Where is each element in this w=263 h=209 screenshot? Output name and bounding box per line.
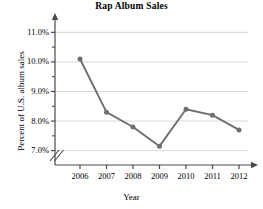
data-point <box>157 144 162 149</box>
data-line <box>80 59 239 146</box>
y-axis-arrow <box>52 13 58 20</box>
rap-album-sales-chart: Rap Album Sales Percent of U.S. album sa… <box>0 0 263 209</box>
data-point <box>131 124 136 129</box>
y-tick-label: 9.0% <box>9 87 49 96</box>
data-point <box>237 127 242 132</box>
x-tick-label: 2012 <box>222 172 256 181</box>
data-point <box>78 56 83 61</box>
data-point <box>210 113 215 118</box>
axis-break-slash-2 <box>55 150 64 161</box>
y-tick-label: 10.0% <box>9 57 49 66</box>
y-tick-label: 7.0% <box>9 146 49 155</box>
y-tick-label: 11.0% <box>9 28 49 37</box>
y-tick-label: 8.0% <box>9 117 49 126</box>
data-point <box>184 107 189 112</box>
x-axis-arrow <box>251 162 258 168</box>
data-point <box>104 110 109 115</box>
